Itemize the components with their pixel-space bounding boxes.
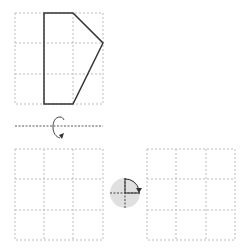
top-grid	[15, 13, 103, 104]
vertical-flip-rotation-arrow-icon	[53, 117, 64, 139]
answer-grid	[15, 149, 103, 240]
result-grid	[147, 149, 235, 240]
puzzle-canvas	[0, 0, 248, 252]
rotate-clockwise-90-icon	[110, 178, 142, 208]
